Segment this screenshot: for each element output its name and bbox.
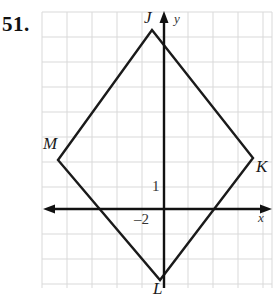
- x-axis-label: x: [258, 210, 264, 226]
- vertex-label-k: K: [256, 157, 267, 177]
- y-axis-label: y: [174, 11, 180, 27]
- vertex-label-l: L: [153, 279, 162, 298]
- y-axis-tick-label-1: 1: [152, 178, 160, 195]
- y-axis-arrow: [160, 11, 169, 23]
- x-axis-arrow-left: [43, 205, 55, 214]
- rhombus-jklm: [58, 30, 253, 280]
- vertex-label-m: M: [43, 134, 57, 154]
- vertex-label-j: J: [144, 8, 152, 28]
- grid-lines: [42, 12, 272, 288]
- x-axis-tick-label-negative-2: –2: [134, 211, 149, 228]
